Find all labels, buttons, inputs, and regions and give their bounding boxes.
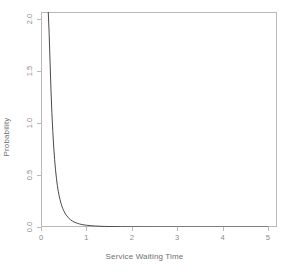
x-tick-label-0: 0 <box>39 234 43 242</box>
chart-figure: 012345 0.00.51.01.52.0 Service Waiting T… <box>0 0 289 274</box>
x-tick-label-3: 3 <box>175 234 179 242</box>
plot-data-layer <box>41 12 277 227</box>
y-tick-2.0 <box>37 19 41 20</box>
y-tick-label-1.0: 1.0 <box>26 116 34 130</box>
y-tick-label-0.5: 0.5 <box>26 168 34 182</box>
y-tick-label-1.5: 1.5 <box>26 64 34 78</box>
y-tick-0.5 <box>37 175 41 176</box>
density-curve <box>48 12 268 227</box>
y-tick-label-2.0: 2.0 <box>26 12 34 26</box>
y-tick-1.5 <box>37 71 41 72</box>
x-tick-4 <box>223 227 224 231</box>
x-tick-5 <box>268 227 269 231</box>
x-tick-3 <box>177 227 178 231</box>
x-tick-label-4: 4 <box>220 234 224 242</box>
x-axis-title: Service Waiting Time <box>0 252 289 261</box>
y-tick-1.0 <box>37 123 41 124</box>
y-tick-0.0 <box>37 227 41 228</box>
x-tick-label-5: 5 <box>266 234 270 242</box>
x-tick-label-2: 2 <box>130 234 134 242</box>
y-tick-label-0.0: 0.0 <box>26 220 34 234</box>
y-axis-title: Probability <box>2 97 11 177</box>
x-tick-label-1: 1 <box>84 234 88 242</box>
x-tick-0 <box>41 227 42 231</box>
x-tick-2 <box>132 227 133 231</box>
x-tick-1 <box>86 227 87 231</box>
curve-svg <box>41 12 277 227</box>
